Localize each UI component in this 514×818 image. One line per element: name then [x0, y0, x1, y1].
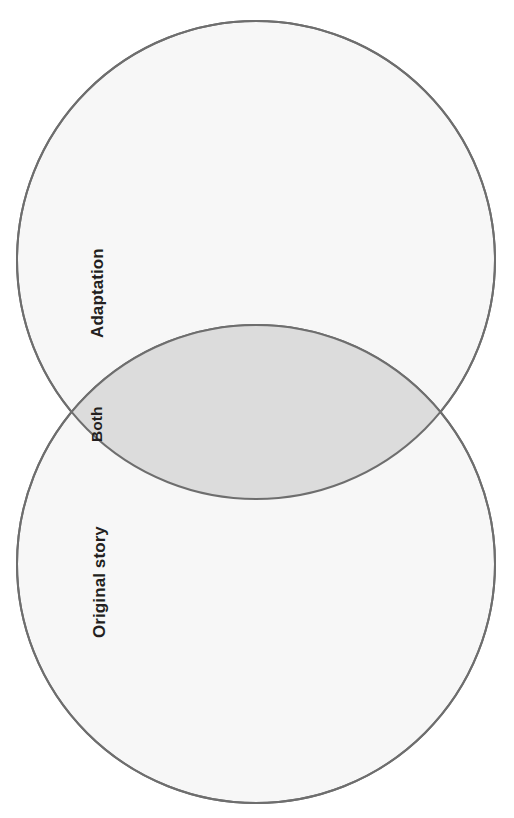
- venn-label-original-story: Original story: [90, 526, 110, 638]
- venn-label-both: Both: [88, 406, 106, 442]
- venn-label-adaptation: Adaptation: [88, 248, 108, 338]
- venn-diagram-page: Adaptation Both Original story: [0, 0, 514, 818]
- venn-diagram-svg: [0, 0, 514, 818]
